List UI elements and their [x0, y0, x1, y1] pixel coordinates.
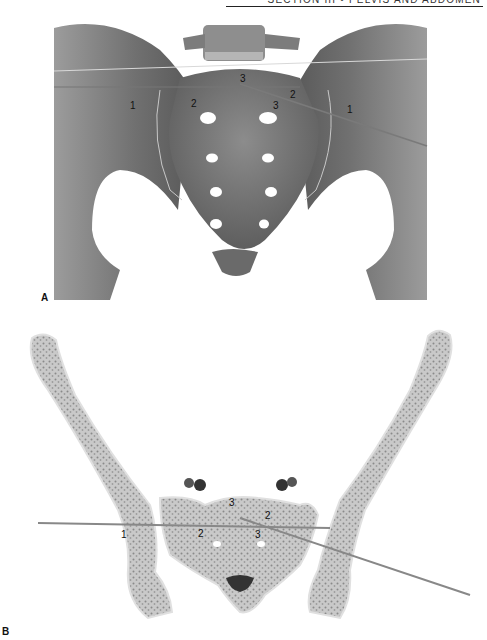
- figure-b: 1 3 2 2 3 B: [0, 320, 487, 640]
- label-a-3-right: 3: [273, 100, 279, 111]
- label-b-1-left: 1: [121, 529, 127, 540]
- header-rule: [226, 6, 483, 7]
- vessel: [194, 479, 206, 491]
- page-header: SECTION III • PELVIS AND ABDOMEN: [0, 0, 487, 12]
- sacrum-section: [160, 497, 318, 612]
- vessel: [287, 477, 297, 487]
- label-a-1-right: 1: [347, 104, 353, 115]
- sacral-foramen: [259, 220, 269, 229]
- right-ilium: [296, 24, 427, 300]
- sacral-foramen: [200, 112, 216, 124]
- sacral-foramen: [210, 219, 222, 229]
- vessel: [184, 478, 194, 488]
- label-b-2-right: 2: [265, 510, 271, 521]
- label-b-2-left: 2: [198, 528, 204, 539]
- sacral-foramen: [262, 154, 274, 163]
- figure-a: 1 2 3 2 3 1 A: [0, 12, 487, 307]
- panel-label-a: A: [41, 292, 48, 303]
- running-title: SECTION III • PELVIS AND ABDOMEN: [268, 0, 481, 5]
- label-a-2-right: 2: [290, 89, 296, 100]
- label-a-2-left: 2: [191, 98, 197, 109]
- label-a-1-left: 1: [130, 100, 136, 111]
- pelvis-axial-section-illustration: 1 3 2 2 3: [0, 320, 487, 640]
- sacral-foramen: [265, 187, 277, 197]
- coccyx: [212, 249, 258, 276]
- sacrum: [169, 69, 319, 249]
- label-b-3-top: 3: [229, 497, 235, 508]
- sacral-foramen: [210, 187, 222, 197]
- label-a-3-top: 3: [240, 73, 246, 84]
- vessel: [276, 479, 288, 491]
- l5-transverse-process-left: [183, 34, 205, 50]
- left-iliac-wing-section: [31, 334, 172, 618]
- left-ilium: [54, 24, 190, 300]
- pelvis-anterior-illustration: 1 2 3 2 3 1: [0, 12, 487, 307]
- panel-label-b: B: [2, 626, 9, 637]
- right-iliac-wing-section: [309, 331, 452, 618]
- sacral-foramen: [206, 154, 218, 163]
- sacral-foramen: [259, 112, 277, 124]
- label-b-3-right: 3: [255, 529, 261, 540]
- l5-transverse-process-right: [265, 34, 300, 50]
